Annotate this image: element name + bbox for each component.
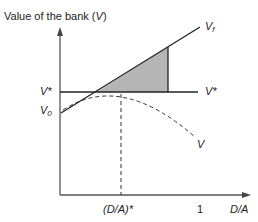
v-curve-label: V: [197, 138, 204, 150]
x-tick-one: 1: [197, 203, 203, 215]
y-axis-label: Value of the bank (V): [4, 10, 107, 22]
bank-value-diagram: [0, 0, 258, 222]
x-axis-arrow-icon: [242, 192, 251, 198]
v-zero-label: V0: [40, 104, 52, 118]
v-f-label: Vf: [205, 20, 215, 34]
y-axis-arrow-icon: [57, 27, 63, 36]
x-axis-label: D/A: [230, 203, 248, 215]
v-curve: [63, 96, 195, 137]
v-star-right-label: V*: [205, 85, 217, 97]
v-star-left-label: V*: [40, 85, 52, 97]
x-tick-d-a-star: (D/A)*: [103, 203, 133, 215]
